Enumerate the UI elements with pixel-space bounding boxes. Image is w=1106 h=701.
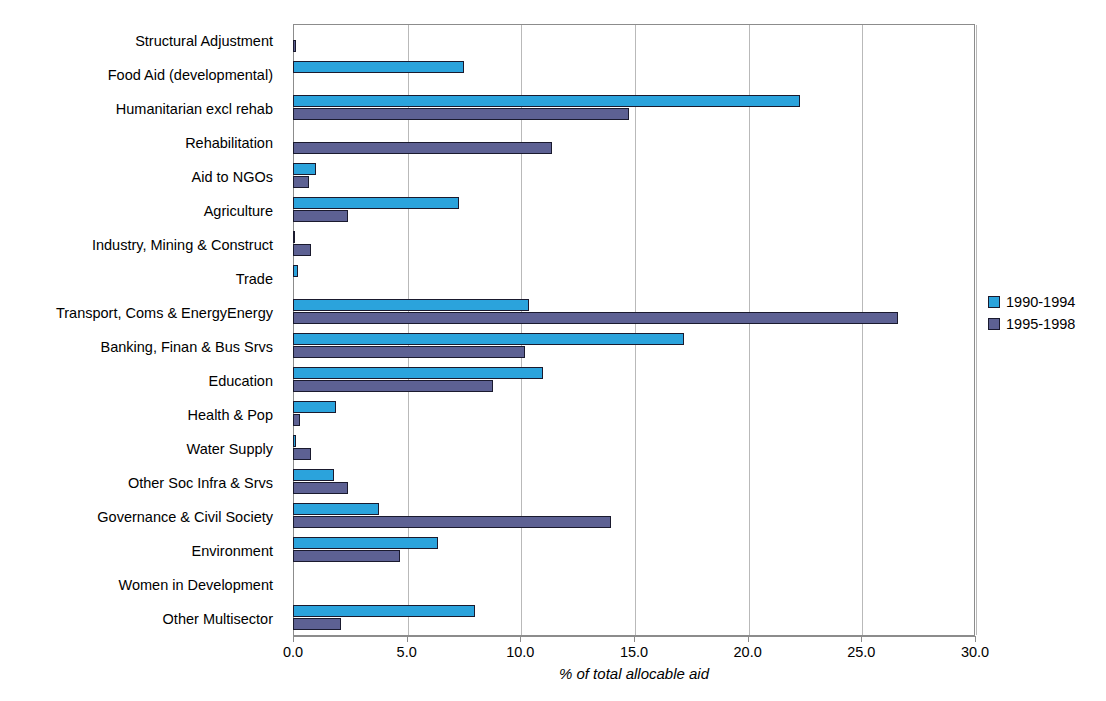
category-label: Food Aid (developmental) bbox=[0, 58, 283, 92]
bar-row bbox=[293, 160, 975, 194]
x-tick-mark bbox=[975, 636, 976, 642]
bar-row bbox=[293, 126, 975, 160]
bar-1 bbox=[293, 108, 629, 120]
legend-label: 1995-1998 bbox=[1006, 316, 1075, 332]
bar-row bbox=[293, 466, 975, 500]
bar-row bbox=[293, 296, 975, 330]
x-tick-mark bbox=[293, 636, 294, 642]
x-tick-label: 5.0 bbox=[397, 644, 417, 660]
chart-page: Structural AdjustmentFood Aid (developme… bbox=[0, 0, 1106, 701]
bar-1 bbox=[293, 40, 296, 52]
x-tick-label: 25.0 bbox=[847, 644, 875, 660]
category-label: Agriculture bbox=[0, 194, 283, 228]
bar-1 bbox=[293, 346, 525, 358]
legend-swatch-icon bbox=[988, 296, 1000, 308]
category-label: Humanitarian excl rehab bbox=[0, 92, 283, 126]
bar-row bbox=[293, 92, 975, 126]
bar-row bbox=[293, 568, 975, 602]
category-label: Rehabilitation bbox=[0, 126, 283, 160]
bar-1 bbox=[293, 176, 309, 188]
bar-1 bbox=[293, 550, 400, 562]
bar-0 bbox=[293, 265, 298, 277]
x-tick-mark bbox=[861, 636, 862, 642]
x-tick-label: 15.0 bbox=[620, 644, 648, 660]
bar-1 bbox=[293, 312, 898, 324]
bar-1 bbox=[293, 516, 611, 528]
category-label: Other Soc Infra & Srvs bbox=[0, 466, 283, 500]
x-tick-label: 10.0 bbox=[506, 644, 534, 660]
category-label: Aid to NGOs bbox=[0, 160, 283, 194]
bar-row bbox=[293, 534, 975, 568]
bar-1 bbox=[293, 618, 341, 630]
bars-container bbox=[293, 24, 975, 636]
bar-1 bbox=[293, 244, 311, 256]
x-axis-title: % of total allocable aid bbox=[293, 665, 975, 682]
chart-title-cropped bbox=[293, 0, 975, 16]
category-label: Education bbox=[0, 364, 283, 398]
category-label: Transport, Coms & EnergyEnergy bbox=[0, 296, 283, 330]
category-label: Banking, Finan & Bus Srvs bbox=[0, 330, 283, 364]
bar-0 bbox=[293, 163, 316, 175]
legend-label: 1990-1994 bbox=[1006, 294, 1075, 310]
bar-0 bbox=[293, 333, 684, 345]
bar-row bbox=[293, 500, 975, 534]
legend-item[interactable]: 1995-1998 bbox=[988, 316, 1075, 332]
x-tick-label: 20.0 bbox=[734, 644, 762, 660]
x-tick-label: 0.0 bbox=[283, 644, 303, 660]
bar-0 bbox=[293, 61, 464, 73]
bar-row bbox=[293, 58, 975, 92]
bar-0 bbox=[293, 231, 295, 243]
bar-row bbox=[293, 330, 975, 364]
gridline-x-30 bbox=[976, 25, 977, 635]
bar-1 bbox=[293, 210, 348, 222]
x-axis-ticks: 0.05.010.015.020.025.030.0 bbox=[293, 636, 975, 666]
x-tick-mark bbox=[634, 636, 635, 642]
bar-1 bbox=[293, 380, 493, 392]
bar-0 bbox=[293, 367, 543, 379]
category-label: Other Multisector bbox=[0, 602, 283, 636]
x-tick-mark bbox=[407, 636, 408, 642]
bar-0 bbox=[293, 537, 438, 549]
bar-0 bbox=[293, 95, 800, 107]
category-label: Industry, Mining & Construct bbox=[0, 228, 283, 262]
bar-row bbox=[293, 364, 975, 398]
bar-1 bbox=[293, 142, 552, 154]
bar-0 bbox=[293, 197, 459, 209]
legend-swatch-icon bbox=[988, 318, 1000, 330]
bar-0 bbox=[293, 401, 336, 413]
category-label: Governance & Civil Society bbox=[0, 500, 283, 534]
bar-row bbox=[293, 398, 975, 432]
bar-0 bbox=[293, 605, 475, 617]
bar-0 bbox=[293, 299, 529, 311]
bar-1 bbox=[293, 448, 311, 460]
bar-row bbox=[293, 228, 975, 262]
bar-0 bbox=[293, 469, 334, 481]
bar-0 bbox=[293, 503, 379, 515]
category-label: Environment bbox=[0, 534, 283, 568]
bar-0 bbox=[293, 435, 296, 447]
x-tick-mark bbox=[748, 636, 749, 642]
bar-row bbox=[293, 194, 975, 228]
legend-item[interactable]: 1990-1994 bbox=[988, 294, 1075, 310]
x-tick-label: 30.0 bbox=[961, 644, 989, 660]
bar-1 bbox=[293, 414, 300, 426]
bar-1 bbox=[293, 482, 348, 494]
bar-row bbox=[293, 432, 975, 466]
chart-legend: 1990-19941995-1998 bbox=[988, 294, 1075, 332]
bar-row bbox=[293, 602, 975, 636]
bar-row bbox=[293, 262, 975, 296]
category-label: Women in Development bbox=[0, 568, 283, 602]
x-tick-mark bbox=[520, 636, 521, 642]
bar-row bbox=[293, 24, 975, 58]
category-label: Structural Adjustment bbox=[0, 24, 283, 58]
category-label: Health & Pop bbox=[0, 398, 283, 432]
category-label: Trade bbox=[0, 262, 283, 296]
category-label: Water Supply bbox=[0, 432, 283, 466]
category-axis-labels: Structural AdjustmentFood Aid (developme… bbox=[0, 24, 283, 636]
